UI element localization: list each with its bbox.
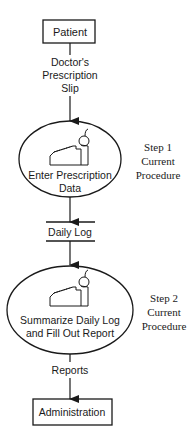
step1-line3: Procedure (136, 169, 181, 181)
enter-data-label-line2: Data (59, 182, 81, 194)
summarize-label-line1: Summarize Daily Log (20, 314, 120, 326)
flow-label-line3: Slip (61, 82, 79, 94)
cash-register-icon (50, 129, 89, 165)
administration-label: Administration (39, 406, 106, 418)
summarize-daily-log-node: Summarize Daily Log and Fill Out Report (7, 266, 133, 354)
patient-node: Patient (43, 20, 95, 43)
summarize-label-line2: and Fill Out Report (26, 327, 114, 339)
enter-prescription-data-node: Enter Prescription Data (19, 121, 121, 197)
prescription-flow-label: Doctor's Prescription Slip (42, 56, 98, 94)
administration-node: Administration (33, 399, 112, 425)
step1-line1: Step 1 (144, 141, 172, 153)
daily-log-node: Daily Log (46, 222, 95, 241)
flow-label-line1: Doctor's (51, 56, 89, 68)
step2-line2: Current (147, 306, 181, 318)
step2-line3: Procedure (142, 320, 187, 332)
reports-flow-label: Reports (52, 364, 89, 376)
patient-label: Patient (53, 26, 87, 38)
step2-annotation: Step 2 Current Procedure (142, 292, 187, 332)
daily-log-label: Daily Log (48, 226, 92, 238)
enter-data-label-line1: Enter Prescription (28, 169, 112, 181)
flow-label-line2: Prescription (42, 69, 98, 81)
step2-line1: Step 2 (150, 292, 178, 304)
step1-annotation: Step 1 Current Procedure (136, 141, 181, 181)
cash-register-icon (50, 270, 89, 306)
step1-line2: Current (141, 155, 175, 167)
flowchart-diagram: Patient Doctor's Prescription Slip Enter… (0, 0, 195, 438)
